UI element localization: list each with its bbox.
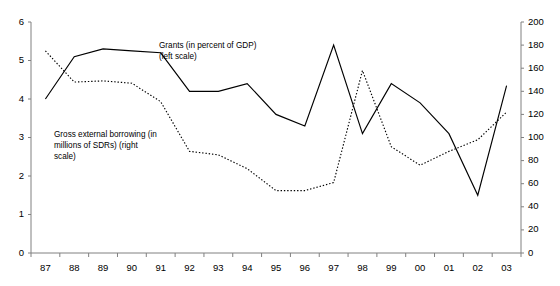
svg-text:98: 98: [357, 262, 368, 273]
svg-text:94: 94: [242, 262, 253, 273]
svg-text:120: 120: [528, 108, 544, 119]
chart-container: 0123456 020406080100120140160180200 8788…: [0, 0, 560, 286]
svg-text:60: 60: [528, 177, 539, 188]
svg-text:4: 4: [19, 93, 24, 104]
svg-text:96: 96: [300, 262, 311, 273]
svg-text:2: 2: [19, 170, 24, 181]
annotation-grants-label: Grants (in percent of GDP) (left scale): [159, 40, 256, 62]
svg-text:90: 90: [127, 262, 138, 273]
svg-text:95: 95: [271, 262, 282, 273]
svg-text:97: 97: [328, 262, 339, 273]
svg-text:00: 00: [415, 262, 426, 273]
svg-text:80: 80: [528, 154, 539, 165]
svg-text:200: 200: [528, 16, 544, 27]
svg-text:40: 40: [528, 200, 539, 211]
svg-text:89: 89: [98, 262, 109, 273]
svg-text:88: 88: [69, 262, 80, 273]
svg-text:140: 140: [528, 85, 544, 96]
svg-text:91: 91: [155, 262, 166, 273]
svg-text:0: 0: [528, 247, 533, 258]
svg-text:3: 3: [19, 131, 24, 142]
svg-text:99: 99: [386, 262, 397, 273]
svg-text:160: 160: [528, 62, 544, 73]
svg-text:6: 6: [19, 16, 24, 27]
svg-text:20: 20: [528, 223, 539, 234]
svg-text:0: 0: [19, 247, 24, 258]
svg-text:180: 180: [528, 39, 544, 50]
annotation-borrowing-label: Gross external borrowing (in millions of…: [54, 129, 157, 162]
svg-text:5: 5: [19, 54, 24, 65]
svg-text:100: 100: [528, 131, 544, 142]
svg-text:03: 03: [501, 262, 512, 273]
svg-text:93: 93: [213, 262, 224, 273]
svg-text:1: 1: [19, 208, 24, 219]
svg-text:87: 87: [40, 262, 51, 273]
svg-text:92: 92: [184, 262, 195, 273]
svg-text:01: 01: [444, 262, 455, 273]
svg-text:02: 02: [472, 262, 483, 273]
